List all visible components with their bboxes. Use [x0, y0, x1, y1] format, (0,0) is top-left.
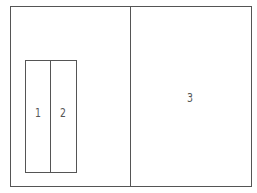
- region-label-3: 3: [187, 91, 193, 104]
- region-label-2: 2: [60, 106, 66, 119]
- inner-divider: [50, 60, 51, 173]
- center-divider: [130, 6, 131, 187]
- inner-box: [25, 60, 77, 173]
- region-label-1: 1: [35, 106, 41, 119]
